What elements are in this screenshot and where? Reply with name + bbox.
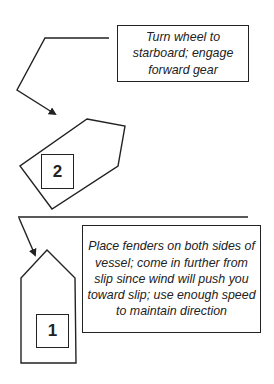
boat-number-badge-2: 2 — [41, 154, 74, 189]
instruction-text-step-1: Place fenders on both sides of vessel; c… — [87, 238, 256, 319]
boat-number-2: 2 — [53, 162, 62, 182]
instruction-box-step-2: Turn wheel to starboard; engage forward … — [117, 25, 249, 82]
boat-number-badge-1: 1 — [36, 314, 69, 348]
leader-arrow-step-2 — [17, 38, 109, 114]
leader-arrow-step-1 — [19, 218, 35, 255]
instruction-text-step-2: Turn wheel to starboard; engage forward … — [126, 29, 240, 79]
boat-number-1: 1 — [48, 321, 57, 341]
instruction-box-step-1: Place fenders on both sides of vessel; c… — [82, 225, 261, 333]
